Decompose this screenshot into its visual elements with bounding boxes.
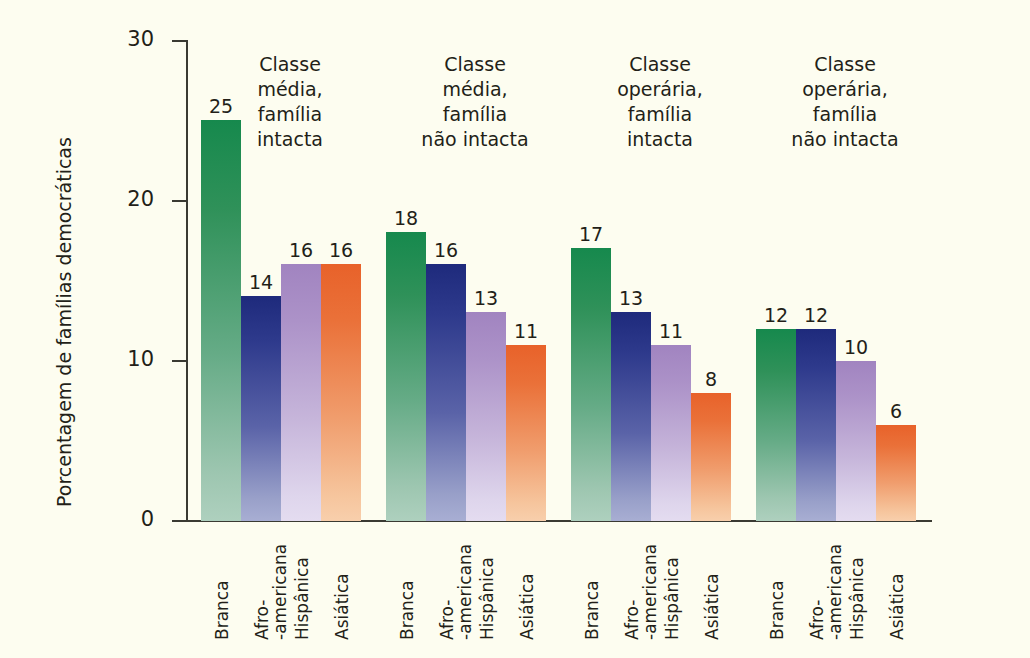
cat-label-text: Afro- xyxy=(252,600,272,640)
group-header-2-line-1: Classe xyxy=(385,52,565,77)
bar-g1-branca[interactable]: 25 xyxy=(201,120,241,521)
group-header-2-line-3: família xyxy=(385,102,565,127)
bar-g2-afro-americana[interactable]: 16 xyxy=(426,264,466,521)
bar-g3-asiatica[interactable]: 8 xyxy=(691,393,731,521)
cat-label-text: Hispânica xyxy=(847,557,867,640)
cat-label-g2-afro-americana: Afro- -americana xyxy=(439,530,479,566)
cat-label-text: Hispânica xyxy=(662,557,682,640)
cat-label-g1-asiatica: Asiática xyxy=(334,530,374,548)
y-tick-10 xyxy=(172,360,186,362)
cat-label-g4-afro-americana: Afro- -americana xyxy=(809,530,849,566)
bar-g3-branca[interactable]: 17 xyxy=(571,248,611,521)
bar-value-g2-branca: 18 xyxy=(394,209,418,228)
group-header-4-line-2: operária, xyxy=(755,77,935,102)
cat-label-g3-hispanica: Hispânica xyxy=(664,530,704,548)
group-header-1-line-1: Classe xyxy=(200,52,380,77)
cat-label-text: Branca xyxy=(212,580,232,640)
cat-label-text: Hispânica xyxy=(292,557,312,640)
cat-label-text: Afro- xyxy=(807,600,827,640)
bar-value-g3-hispanica: 11 xyxy=(659,322,683,341)
bar-value-g1-afro-americana: 14 xyxy=(249,273,273,292)
bar-value-g2-hispanica: 13 xyxy=(474,289,498,308)
bar-value-g2-asiatica: 11 xyxy=(514,322,538,341)
bar-g4-hispanica[interactable]: 10 xyxy=(836,361,876,521)
bar-value-g2-afro-americana: 16 xyxy=(434,241,458,260)
cat-label-text: Asiática xyxy=(517,573,537,640)
cat-label-text-line2: -americana xyxy=(827,530,845,640)
group-header-2-line-4: não intacta xyxy=(385,127,565,152)
group-header-3-line-2: operária, xyxy=(570,77,750,102)
y-tick-label-0: 0 xyxy=(110,509,154,530)
cat-label-g4-hispanica: Hispânica xyxy=(849,530,889,548)
chart-page: Porcentagem de famílias democráticas 30 … xyxy=(0,0,1030,658)
bar-value-g3-afro-americana: 13 xyxy=(619,289,643,308)
bar-value-g4-hispanica: 10 xyxy=(844,338,868,357)
bar-value-g1-branca: 25 xyxy=(209,97,233,116)
cat-label-text: Asiática xyxy=(887,573,907,640)
bar-g1-hispanica[interactable]: 16 xyxy=(281,264,321,521)
cat-label-g3-branca: Branca xyxy=(584,530,624,548)
cat-label-g4-asiatica: Asiática xyxy=(889,530,929,548)
cat-label-g2-hispanica: Hispânica xyxy=(479,530,519,548)
y-tick-label-20: 20 xyxy=(110,189,154,210)
cat-label-text-line2: -americana xyxy=(642,530,660,640)
bar-g4-branca[interactable]: 12 xyxy=(756,329,796,521)
cat-label-g1-hispanica: Hispânica xyxy=(294,530,334,548)
cat-label-text-line2: -americana xyxy=(272,530,290,640)
bar-g1-asiatica[interactable]: 16 xyxy=(321,264,361,521)
bar-value-g4-afro-americana: 12 xyxy=(804,306,828,325)
cat-label-g1-branca: Branca xyxy=(214,530,254,548)
bar-g1-afro-americana[interactable]: 14 xyxy=(241,296,281,521)
y-tick-label-30: 30 xyxy=(110,29,154,50)
cat-label-g2-asiatica: Asiática xyxy=(519,530,559,548)
cat-label-g3-asiatica: Asiática xyxy=(704,530,744,548)
group-header-4-line-3: família xyxy=(755,102,935,127)
group-header-3-line-3: família xyxy=(570,102,750,127)
cat-label-g3-afro-americana: Afro- -americana xyxy=(624,530,664,566)
cat-label-text-line2: -americana xyxy=(457,530,475,640)
bar-g4-asiatica[interactable]: 6 xyxy=(876,425,916,521)
cat-label-text: Branca xyxy=(397,580,417,640)
group-header-4-line-1: Classe xyxy=(755,52,935,77)
cat-label-text: Asiática xyxy=(332,573,352,640)
bar-value-g3-branca: 17 xyxy=(579,225,603,244)
group-header-2: Classe média, família não intacta xyxy=(385,52,565,152)
y-tick-0 xyxy=(172,520,186,522)
y-tick-30 xyxy=(172,40,186,42)
bar-value-g1-hispanica: 16 xyxy=(289,241,313,260)
bar-g3-afro-americana[interactable]: 13 xyxy=(611,312,651,521)
bar-g3-hispanica[interactable]: 11 xyxy=(651,345,691,521)
group-header-4: Classe operária, família não intacta xyxy=(755,52,935,152)
bar-g2-asiatica[interactable]: 11 xyxy=(506,345,546,521)
cat-label-text: Asiática xyxy=(702,573,722,640)
cat-label-g4-branca: Branca xyxy=(769,530,809,548)
cat-label-text: Branca xyxy=(767,580,787,640)
bar-chart: Porcentagem de famílias democráticas 30 … xyxy=(0,0,1030,658)
y-tick-label-10: 10 xyxy=(110,349,154,370)
bar-g2-branca[interactable]: 18 xyxy=(386,232,426,521)
group-header-3-line-4: intacta xyxy=(570,127,750,152)
bar-value-g3-asiatica: 8 xyxy=(705,370,717,389)
bar-value-g1-asiatica: 16 xyxy=(329,241,353,260)
bar-value-g4-branca: 12 xyxy=(764,306,788,325)
y-tick-20 xyxy=(172,200,186,202)
y-axis-line xyxy=(186,40,188,522)
bar-value-g4-asiatica: 6 xyxy=(890,402,902,421)
y-axis-title: Porcentagem de famílias democráticas xyxy=(53,147,75,507)
cat-label-text: Branca xyxy=(582,580,602,640)
group-header-3: Classe operária, família intacta xyxy=(570,52,750,152)
cat-label-text: Afro- xyxy=(622,600,642,640)
bar-g2-hispanica[interactable]: 13 xyxy=(466,312,506,521)
cat-label-text: Afro- xyxy=(437,600,457,640)
bar-g4-afro-americana[interactable]: 12 xyxy=(796,329,836,521)
cat-label-g1-afro-americana: Afro- -americana xyxy=(254,530,294,566)
group-header-2-line-2: média, xyxy=(385,77,565,102)
group-header-3-line-1: Classe xyxy=(570,52,750,77)
cat-label-text: Hispânica xyxy=(477,557,497,640)
group-header-4-line-4: não intacta xyxy=(755,127,935,152)
cat-label-g2-branca: Branca xyxy=(399,530,439,548)
